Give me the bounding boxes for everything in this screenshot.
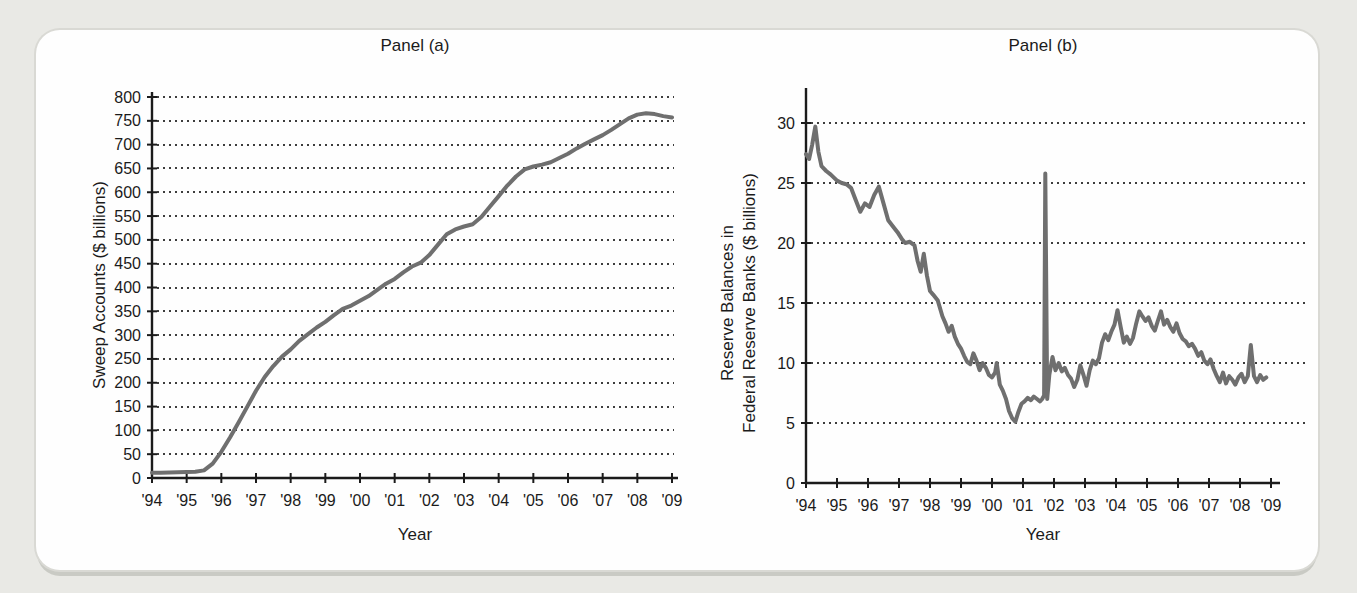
x-tick-label: '09	[662, 492, 683, 509]
x-tick-label: '00	[350, 492, 371, 509]
panel-b-x-axis-label: Year	[806, 525, 1280, 545]
y-tick-label: 400	[114, 279, 141, 296]
y-tick-label: 550	[114, 208, 141, 225]
x-tick-label: '06	[558, 492, 579, 509]
x-tick-label: '02	[1044, 497, 1065, 514]
x-tick-label: '05	[523, 492, 544, 509]
y-tick-label: 200	[114, 374, 141, 391]
x-tick-label: '07	[592, 492, 613, 509]
y-tick-label: 150	[114, 398, 141, 415]
x-tick-label: '02	[419, 492, 440, 509]
x-tick-label: '00	[982, 497, 1003, 514]
x-tick-label: '05	[1137, 497, 1158, 514]
y-tick-label: 10	[777, 355, 795, 372]
x-tick-label: '03	[454, 492, 475, 509]
x-tick-label: '04	[1106, 497, 1127, 514]
y-tick-label: 750	[114, 112, 141, 129]
x-tick-label: '06	[1168, 497, 1189, 514]
x-tick-label: '99	[951, 497, 972, 514]
y-tick-label: 250	[114, 350, 141, 367]
y-tick-label: 20	[777, 235, 795, 252]
x-tick-label: '03	[1075, 497, 1096, 514]
y-tick-label: 25	[777, 175, 795, 192]
y-tick-label: 100	[114, 422, 141, 439]
x-tick-label: '97	[889, 497, 910, 514]
charts-canvas: 0501001502002503003504004505005506006507…	[36, 30, 1318, 570]
y-tick-label: 5	[786, 415, 795, 432]
y-tick-label: 600	[114, 184, 141, 201]
y-tick-label: 50	[123, 446, 141, 463]
y-tick-label: 15	[777, 295, 795, 312]
y-tick-label: 700	[114, 136, 141, 153]
x-tick-label: '08	[1230, 497, 1251, 514]
y-tick-label: 450	[114, 255, 141, 272]
x-tick-label: '08	[627, 492, 648, 509]
x-tick-label: '01	[384, 492, 405, 509]
x-tick-label: '98	[280, 492, 301, 509]
y-tick-label: 0	[132, 470, 141, 487]
x-tick-label: '96	[858, 497, 879, 514]
data-line	[152, 113, 672, 473]
y-tick-label: 650	[114, 160, 141, 177]
x-tick-label: '98	[920, 497, 941, 514]
x-tick-label: '96	[211, 492, 232, 509]
x-tick-label: '94	[142, 492, 163, 509]
x-tick-label: '95	[827, 497, 848, 514]
panel-a-x-axis-label: Year	[152, 525, 678, 545]
y-tick-label: 300	[114, 327, 141, 344]
figure-card: Panel (a) Panel (b) Sweep Accounts ($ bi…	[36, 30, 1318, 570]
y-tick-label: 350	[114, 303, 141, 320]
x-tick-label: '09	[1261, 497, 1282, 514]
x-tick-label: '01	[1013, 497, 1034, 514]
y-tick-label: 0	[786, 475, 795, 492]
x-tick-label: '94	[796, 497, 817, 514]
x-tick-label: '97	[246, 492, 267, 509]
y-tick-label: 30	[777, 115, 795, 132]
x-tick-label: '04	[488, 492, 509, 509]
x-tick-label: '99	[315, 492, 336, 509]
x-tick-label: '95	[176, 492, 197, 509]
x-tick-label: '07	[1199, 497, 1220, 514]
page-background: { "page": { "background_color": "#e9e9e5…	[0, 0, 1357, 593]
y-tick-label: 500	[114, 231, 141, 248]
data-line	[806, 127, 1266, 422]
y-tick-label: 800	[114, 89, 141, 106]
